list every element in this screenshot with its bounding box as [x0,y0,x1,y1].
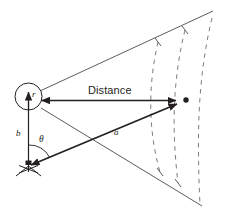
target-point-icon [183,97,188,102]
distance-label: Distance [88,85,132,96]
beam-arc-3 [198,18,212,205]
diagram-canvas: Distance r b a θ [0,0,238,222]
beam-edge-lower [41,108,202,206]
beam-arc-1 [151,42,160,172]
angle-theta-arc [29,145,50,157]
angle-label: θ [39,135,44,145]
radius-label: r [32,90,36,99]
baseline-label: b [16,129,21,138]
beam-edge-upper [40,11,213,91]
beam-cone-edges [40,11,213,206]
slant-a-arrow [31,104,177,165]
slant-label: a [114,128,119,137]
beam-arc-2 [174,30,185,183]
geometry-svg [0,0,238,222]
